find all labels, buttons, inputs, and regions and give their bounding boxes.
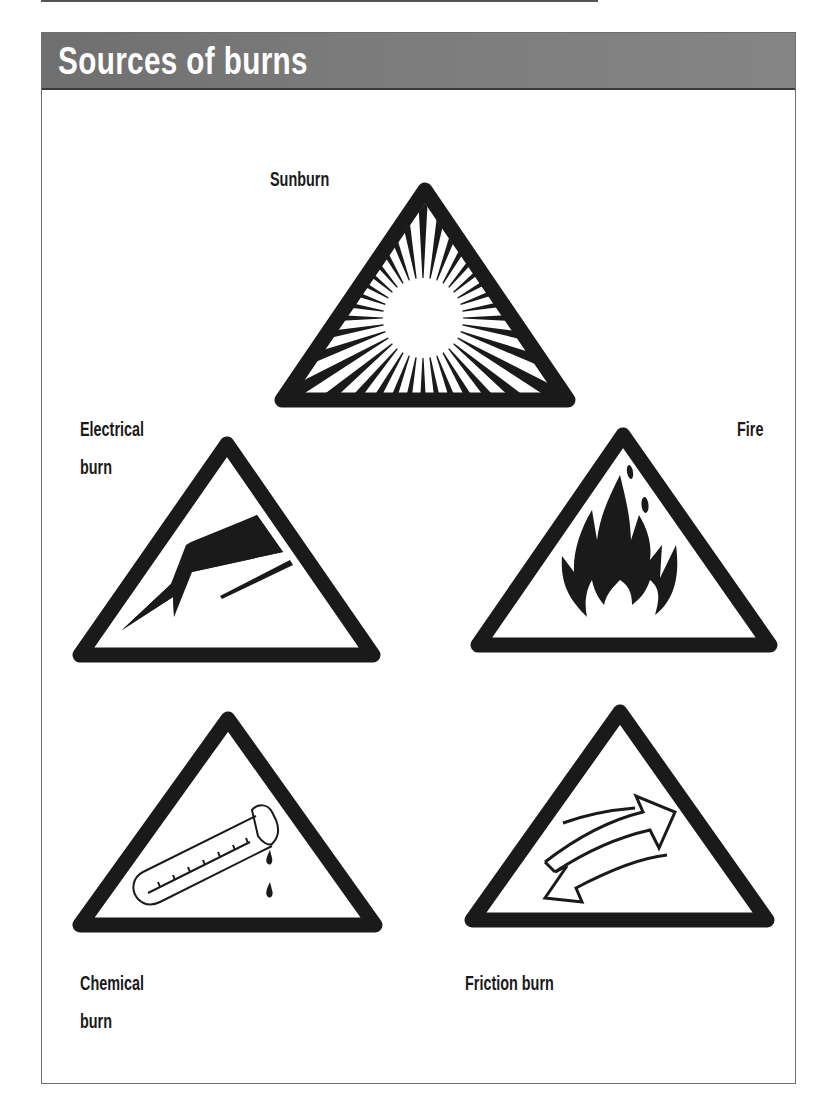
fire-label: Fire <box>737 410 763 448</box>
friction-burn-warning-sign <box>472 712 767 920</box>
chemical-burn-warning-sign <box>80 719 375 925</box>
burn-signs-illustration <box>0 0 832 1109</box>
friction-burn-label: Friction burn <box>465 964 554 1002</box>
electrical-burn-warning-sign <box>80 444 373 655</box>
electrical-burn-label-line2: burn <box>80 448 112 486</box>
electrical-burn-label-line1: Electrical <box>80 410 144 448</box>
sunburn-label: Sunburn <box>270 160 329 198</box>
fire-warning-sign <box>478 435 770 645</box>
warning-triangle-icon <box>80 719 375 925</box>
chemical-burn-label-line2: burn <box>80 1002 112 1040</box>
chemical-burn-label-line1: Chemical <box>80 964 144 1002</box>
warning-triangle-icon <box>472 712 767 920</box>
